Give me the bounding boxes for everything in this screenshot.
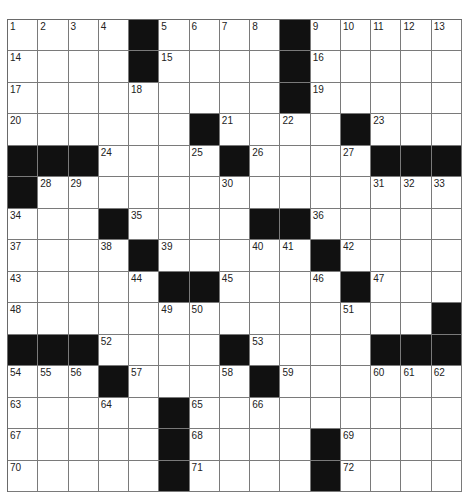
grid-cell[interactable] bbox=[401, 429, 431, 460]
grid-cell[interactable] bbox=[250, 303, 280, 334]
grid-cell[interactable] bbox=[432, 398, 462, 429]
grid-cell[interactable] bbox=[250, 51, 280, 82]
grid-cell[interactable] bbox=[371, 303, 401, 334]
grid-cell[interactable] bbox=[220, 240, 250, 271]
grid-cell[interactable] bbox=[190, 366, 220, 397]
grid-cell[interactable]: 43 bbox=[8, 272, 38, 303]
grid-cell[interactable] bbox=[432, 83, 462, 114]
grid-cell[interactable] bbox=[311, 398, 341, 429]
grid-cell[interactable]: 7 bbox=[220, 20, 250, 51]
grid-cell[interactable] bbox=[250, 114, 280, 145]
grid-cell[interactable] bbox=[280, 461, 310, 492]
grid-cell[interactable] bbox=[69, 240, 99, 271]
grid-cell[interactable] bbox=[129, 303, 159, 334]
grid-cell[interactable] bbox=[250, 272, 280, 303]
grid-cell[interactable]: 11 bbox=[371, 20, 401, 51]
grid-cell[interactable] bbox=[220, 429, 250, 460]
grid-cell[interactable] bbox=[401, 83, 431, 114]
grid-cell[interactable] bbox=[401, 303, 431, 334]
grid-cell[interactable]: 3 bbox=[69, 20, 99, 51]
grid-cell[interactable] bbox=[311, 335, 341, 366]
grid-cell[interactable] bbox=[311, 177, 341, 208]
grid-cell[interactable] bbox=[371, 461, 401, 492]
grid-cell[interactable] bbox=[401, 240, 431, 271]
grid-cell[interactable] bbox=[280, 335, 310, 366]
grid-cell[interactable] bbox=[432, 114, 462, 145]
grid-cell[interactable] bbox=[69, 303, 99, 334]
grid-cell[interactable]: 57 bbox=[129, 366, 159, 397]
grid-cell[interactable]: 49 bbox=[159, 303, 189, 334]
grid-cell[interactable] bbox=[371, 398, 401, 429]
grid-cell[interactable] bbox=[99, 303, 129, 334]
grid-cell[interactable] bbox=[432, 209, 462, 240]
grid-cell[interactable] bbox=[220, 303, 250, 334]
grid-cell[interactable] bbox=[280, 429, 310, 460]
grid-cell[interactable]: 4 bbox=[99, 20, 129, 51]
grid-cell[interactable] bbox=[401, 398, 431, 429]
grid-cell[interactable]: 37 bbox=[8, 240, 38, 271]
grid-cell[interactable]: 23 bbox=[371, 114, 401, 145]
grid-cell[interactable]: 36 bbox=[311, 209, 341, 240]
grid-cell[interactable]: 52 bbox=[99, 335, 129, 366]
grid-cell[interactable] bbox=[280, 272, 310, 303]
grid-cell[interactable]: 55 bbox=[38, 366, 68, 397]
grid-cell[interactable] bbox=[432, 461, 462, 492]
grid-cell[interactable]: 68 bbox=[190, 429, 220, 460]
grid-cell[interactable] bbox=[341, 335, 371, 366]
grid-cell[interactable] bbox=[311, 146, 341, 177]
grid-cell[interactable]: 45 bbox=[220, 272, 250, 303]
grid-cell[interactable]: 30 bbox=[220, 177, 250, 208]
grid-cell[interactable] bbox=[159, 209, 189, 240]
grid-cell[interactable]: 53 bbox=[250, 335, 280, 366]
grid-cell[interactable]: 1 bbox=[8, 20, 38, 51]
grid-cell[interactable] bbox=[69, 398, 99, 429]
grid-cell[interactable] bbox=[159, 177, 189, 208]
grid-cell[interactable] bbox=[220, 83, 250, 114]
grid-cell[interactable]: 50 bbox=[190, 303, 220, 334]
grid-cell[interactable] bbox=[311, 303, 341, 334]
grid-cell[interactable] bbox=[159, 335, 189, 366]
grid-cell[interactable]: 21 bbox=[220, 114, 250, 145]
grid-cell[interactable]: 66 bbox=[250, 398, 280, 429]
grid-cell[interactable]: 34 bbox=[8, 209, 38, 240]
grid-cell[interactable] bbox=[129, 146, 159, 177]
grid-cell[interactable]: 5 bbox=[159, 20, 189, 51]
grid-cell[interactable] bbox=[159, 366, 189, 397]
grid-cell[interactable] bbox=[371, 51, 401, 82]
grid-cell[interactable]: 46 bbox=[311, 272, 341, 303]
grid-cell[interactable] bbox=[38, 303, 68, 334]
grid-cell[interactable] bbox=[129, 114, 159, 145]
grid-cell[interactable]: 54 bbox=[8, 366, 38, 397]
grid-cell[interactable] bbox=[190, 335, 220, 366]
grid-cell[interactable] bbox=[341, 398, 371, 429]
grid-cell[interactable] bbox=[38, 114, 68, 145]
grid-cell[interactable]: 17 bbox=[8, 83, 38, 114]
grid-cell[interactable]: 71 bbox=[190, 461, 220, 492]
grid-cell[interactable] bbox=[220, 209, 250, 240]
grid-cell[interactable] bbox=[311, 366, 341, 397]
grid-cell[interactable] bbox=[401, 114, 431, 145]
grid-cell[interactable]: 33 bbox=[432, 177, 462, 208]
grid-cell[interactable] bbox=[432, 429, 462, 460]
grid-cell[interactable]: 16 bbox=[311, 51, 341, 82]
grid-cell[interactable] bbox=[38, 240, 68, 271]
grid-cell[interactable] bbox=[220, 398, 250, 429]
grid-cell[interactable] bbox=[250, 429, 280, 460]
grid-cell[interactable] bbox=[432, 240, 462, 271]
grid-cell[interactable] bbox=[341, 177, 371, 208]
grid-cell[interactable]: 40 bbox=[250, 240, 280, 271]
grid-cell[interactable] bbox=[69, 429, 99, 460]
grid-cell[interactable] bbox=[250, 177, 280, 208]
grid-cell[interactable]: 67 bbox=[8, 429, 38, 460]
grid-cell[interactable]: 35 bbox=[129, 209, 159, 240]
grid-cell[interactable]: 6 bbox=[190, 20, 220, 51]
grid-cell[interactable] bbox=[371, 83, 401, 114]
grid-cell[interactable]: 58 bbox=[220, 366, 250, 397]
grid-cell[interactable] bbox=[280, 398, 310, 429]
grid-cell[interactable]: 70 bbox=[8, 461, 38, 492]
grid-cell[interactable] bbox=[69, 209, 99, 240]
grid-cell[interactable] bbox=[190, 240, 220, 271]
grid-cell[interactable] bbox=[38, 83, 68, 114]
grid-cell[interactable] bbox=[69, 51, 99, 82]
grid-cell[interactable]: 18 bbox=[129, 83, 159, 114]
